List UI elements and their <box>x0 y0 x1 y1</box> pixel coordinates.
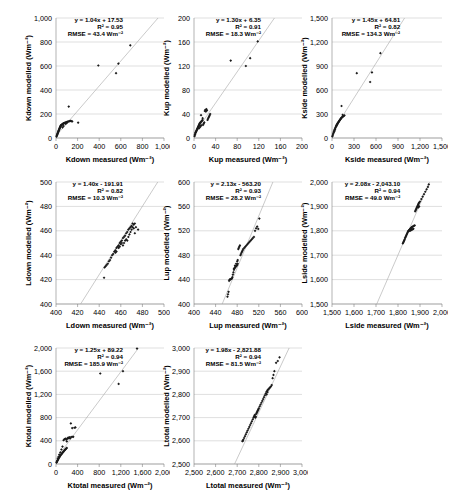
x-tick-label: 600 <box>115 142 127 151</box>
x-tick-label: 1,500 <box>433 142 448 151</box>
y-axis-title: Ltotal modelled (Wm⁻²) <box>162 365 171 447</box>
y-tick-label: 900 <box>316 62 328 71</box>
x-tick-label: 0 <box>330 142 334 151</box>
y-tick-label: 0 <box>186 134 190 143</box>
y-tick-label: 2,700 <box>172 413 190 422</box>
data-point <box>135 226 138 229</box>
rmse-label: RMSE = 134.3 Wm⁻² <box>342 30 401 37</box>
data-point <box>103 276 106 279</box>
y-tick-label: 1,200 <box>34 390 52 399</box>
data-point <box>129 44 132 47</box>
y-axis-title: Kup modelled (Wm⁻²) <box>162 40 171 116</box>
r-squared-label: R² = 0.82 <box>97 187 123 194</box>
x-tick-label: 0 <box>54 468 58 477</box>
x-tick-label: 160 <box>274 142 286 151</box>
data-point <box>127 236 130 239</box>
y-tick-label: 400 <box>40 86 52 95</box>
y-tick-label: 1,600 <box>310 275 328 284</box>
data-point <box>97 64 100 67</box>
rmse-label: RMSE = 81.5 Wm⁻² <box>206 360 261 367</box>
x-tick-label: 1,900 <box>411 308 429 317</box>
y-tick-label: 200 <box>40 110 52 119</box>
x-axis-title: Kdown measured (Wm⁻²) <box>66 155 155 164</box>
y-axis-title: Lup modelled (Wm⁻²) <box>162 205 171 281</box>
scatter-panel-ktotal: 04008001,2001,6002,00004008001,2001,6002… <box>22 338 170 494</box>
x-tick-label: 200 <box>72 142 84 151</box>
x-tick-label: 520 <box>253 308 265 317</box>
data-point <box>249 57 252 60</box>
x-axis-title: Kside measured (Wm⁻²) <box>345 155 430 164</box>
data-point <box>254 229 257 232</box>
scatter-panel-ltotal: 2,5002,6002,7002,8002,9003,0002,5002,600… <box>160 338 308 494</box>
x-axis-title: Lside measured (Wm⁻²) <box>345 321 429 330</box>
data-point <box>71 427 74 430</box>
y-tick-label: 2,000 <box>34 344 52 353</box>
y-tick-label: 0 <box>48 134 52 143</box>
fit-equation-label: y = 1.40x - 191.91 <box>73 180 124 187</box>
x-tick-label: 440 <box>210 308 222 317</box>
scatter-panel-lside: 1,5001,6001,7001,8001,9002,0001,5001,600… <box>298 172 448 334</box>
x-axis-title: Ldown measured (Wm⁻²) <box>66 321 154 330</box>
radiation-validation-figure: 02004006008001,00002004006008001,000y = … <box>0 0 454 494</box>
x-tick-label: 2,000 <box>433 308 448 317</box>
y-axis-title: Kside modelled (Wm⁻²) <box>300 37 309 119</box>
data-point <box>425 188 428 191</box>
x-tick-label: 3,000 <box>293 468 308 477</box>
y-tick-label: 2,900 <box>172 367 190 376</box>
data-point <box>273 370 276 373</box>
data-point <box>117 383 120 386</box>
rmse-label: RMSE = 43.4 Wm⁻² <box>68 30 123 37</box>
data-point <box>379 52 382 55</box>
data-point <box>201 117 204 120</box>
data-point <box>115 72 118 75</box>
data-point <box>420 198 423 201</box>
data-point <box>226 295 229 298</box>
r-squared-label: R² = 0.94 <box>375 187 401 194</box>
x-tick-label: 1,800 <box>389 308 407 317</box>
r-squared-label: R² = 0.94 <box>235 353 261 360</box>
data-point <box>133 232 136 235</box>
x-tick-label: 120 <box>253 142 265 151</box>
y-tick-label: 120 <box>178 62 190 71</box>
x-tick-label: 460 <box>115 308 127 317</box>
y-tick-label: 500 <box>40 178 52 187</box>
data-point <box>232 271 235 274</box>
y-tick-label: 600 <box>178 178 190 187</box>
data-point <box>229 59 232 62</box>
y-tick-label: 2,800 <box>172 390 190 399</box>
data-point <box>369 81 372 84</box>
fit-equation-label: y = 2.13x - 563.20 <box>211 180 262 187</box>
x-tick-label: 1,500 <box>323 308 341 317</box>
y-axis-title: Ktotal modelled (Wm⁻²) <box>24 364 33 447</box>
y-tick-label: 460 <box>40 226 52 235</box>
x-tick-label: 480 <box>136 308 148 317</box>
scatter-panel-kdown: 02004006008001,00002004006008001,000y = … <box>22 8 170 168</box>
x-tick-label: 400 <box>50 308 62 317</box>
x-tick-label: 0 <box>54 142 58 151</box>
y-tick-label: 480 <box>178 251 190 260</box>
x-tick-label: 2,700 <box>228 468 246 477</box>
x-tick-label: 600 <box>370 142 382 151</box>
y-tick-label: 1,800 <box>310 226 328 235</box>
data-point <box>137 228 140 231</box>
x-axis-title: Ltotal measured (Wm⁻²) <box>206 481 291 490</box>
y-axis-title: Ldown modelled (Wm⁻²) <box>24 200 33 286</box>
x-tick-label: 2,600 <box>207 468 225 477</box>
x-axis-title: Lup measured (Wm⁻²) <box>209 321 287 330</box>
data-point <box>276 360 279 363</box>
r-squared-label: R² = 0.91 <box>235 23 261 30</box>
y-tick-label: 1,700 <box>310 251 328 260</box>
y-tick-label: 420 <box>40 275 52 284</box>
x-tick-label: 800 <box>93 468 105 477</box>
y-axis-title: Kdown modelled (Wm⁻²) <box>24 34 33 121</box>
y-tick-label: 1,500 <box>310 14 328 23</box>
r-squared-label: R² = 0.95 <box>97 23 123 30</box>
rmse-label: RMSE = 10.3 Wm⁻² <box>68 194 123 201</box>
x-tick-label: 1,200 <box>411 142 429 151</box>
x-tick-label: 420 <box>72 308 84 317</box>
data-point <box>257 228 260 231</box>
x-tick-label: 440 <box>93 308 105 317</box>
y-tick-label: 160 <box>178 38 190 47</box>
scatter-panel-ldown: 400420440460480500400420440460480500y = … <box>22 172 170 334</box>
rmse-label: RMSE = 49.0 Wm⁻² <box>345 194 400 201</box>
